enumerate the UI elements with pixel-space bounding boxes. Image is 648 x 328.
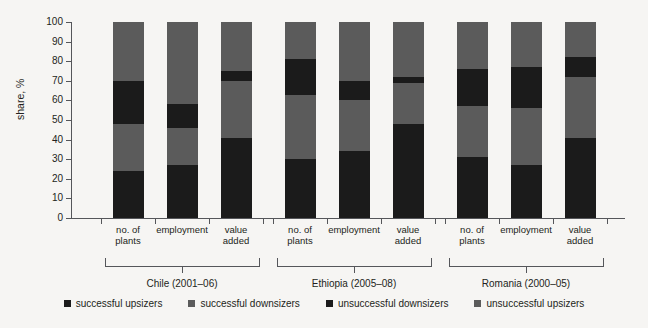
bracket-line bbox=[449, 258, 604, 267]
group-label: Romania (2000–05) bbox=[449, 278, 604, 289]
bracket-line bbox=[277, 258, 432, 267]
bar-segment bbox=[167, 104, 198, 128]
legend-item[interactable]: unsuccessful upsizers bbox=[474, 298, 584, 309]
y-tick-mark bbox=[66, 100, 71, 101]
y-tick-mark bbox=[66, 179, 71, 180]
y-axis-tick: 80 bbox=[52, 56, 72, 66]
bar-segment bbox=[511, 67, 542, 108]
y-axis-tick: 90 bbox=[52, 37, 72, 47]
bar-segment bbox=[113, 124, 144, 171]
bar-segment bbox=[113, 81, 144, 124]
y-axis-tick: 70 bbox=[52, 76, 72, 86]
legend-swatch-icon bbox=[474, 300, 481, 307]
y-axis-tick: 30 bbox=[52, 154, 72, 164]
y-tick-mark bbox=[66, 61, 71, 62]
legend-label: successful upsizers bbox=[76, 298, 163, 309]
bar-segment bbox=[393, 77, 424, 83]
chart-figure: share, % 0102030405060708090100 no. ofpl… bbox=[0, 0, 648, 328]
category-label: valueadded bbox=[543, 224, 617, 246]
legend-swatch-icon bbox=[64, 300, 71, 307]
y-axis-tick: 50 bbox=[52, 115, 72, 125]
bar-segment bbox=[511, 22, 542, 67]
bar-segment bbox=[221, 22, 252, 71]
legend-swatch-icon bbox=[326, 300, 333, 307]
y-axis-tick: 20 bbox=[52, 174, 72, 184]
y-tick-mark bbox=[66, 120, 71, 121]
y-tick-mark bbox=[66, 218, 71, 219]
plot-area: 0102030405060708090100 bbox=[72, 22, 624, 218]
bar-segment bbox=[393, 124, 424, 218]
legend-item[interactable]: unsuccessful downsizers bbox=[326, 298, 449, 309]
legend-swatch-icon bbox=[188, 300, 195, 307]
bar-segment bbox=[285, 159, 316, 218]
bar-segment bbox=[113, 171, 144, 218]
group-bracket: Chile (2001–06) bbox=[105, 258, 260, 289]
bar-segment bbox=[511, 108, 542, 165]
bracket-line bbox=[105, 258, 260, 267]
legend-item[interactable]: successful upsizers bbox=[64, 298, 163, 309]
bar-segment bbox=[167, 165, 198, 218]
bar-segment bbox=[339, 151, 370, 218]
legend-label: unsuccessful downsizers bbox=[338, 298, 449, 309]
y-axis-label: share, % bbox=[14, 79, 26, 120]
y-axis-tick: 100 bbox=[46, 17, 72, 27]
bar-segment bbox=[457, 69, 488, 106]
bar-segment bbox=[167, 128, 198, 165]
legend-label: successful downsizers bbox=[200, 298, 299, 309]
bar-segment bbox=[285, 22, 316, 59]
bar-segment bbox=[221, 138, 252, 218]
bar-segment bbox=[565, 22, 596, 57]
category-label: valueadded bbox=[199, 224, 273, 246]
bar-segment bbox=[457, 157, 488, 218]
bar-segment bbox=[393, 22, 424, 77]
legend-item[interactable]: successful downsizers bbox=[188, 298, 299, 309]
chart-legend: successful upsizerssuccessful downsizers… bbox=[0, 298, 648, 309]
bar-segment bbox=[457, 106, 488, 157]
y-tick-mark bbox=[66, 140, 71, 141]
y-axis-tick: 40 bbox=[52, 135, 72, 145]
y-tick-mark bbox=[66, 159, 71, 160]
y-axis-tick: 0 bbox=[57, 213, 72, 223]
bar-segment bbox=[339, 81, 370, 101]
bar-segment bbox=[167, 22, 198, 104]
bar-segment bbox=[339, 22, 370, 81]
legend-label: unsuccessful upsizers bbox=[486, 298, 584, 309]
bar-segment bbox=[565, 138, 596, 218]
bar-segment bbox=[565, 57, 596, 77]
bracket-stem bbox=[182, 266, 183, 273]
group-bracket: Romania (2000–05) bbox=[449, 258, 604, 289]
bar-segment bbox=[221, 71, 252, 81]
bar-segment bbox=[565, 77, 596, 138]
bar-segment bbox=[113, 22, 144, 81]
bracket-stem bbox=[526, 266, 527, 273]
bar-segment bbox=[285, 95, 316, 160]
y-tick-mark bbox=[66, 42, 71, 43]
bar-segment bbox=[511, 165, 542, 218]
group-bracket: Ethiopia (2005–08) bbox=[277, 258, 432, 289]
group-label: Ethiopia (2005–08) bbox=[277, 278, 432, 289]
y-tick-mark bbox=[66, 22, 71, 23]
y-tick-mark bbox=[66, 81, 71, 82]
bracket-stem bbox=[354, 266, 355, 273]
bar-segment bbox=[457, 22, 488, 69]
category-label: valueadded bbox=[371, 224, 445, 246]
group-label: Chile (2001–06) bbox=[105, 278, 260, 289]
y-axis-tick: 60 bbox=[52, 95, 72, 105]
y-axis-tick: 10 bbox=[52, 193, 72, 203]
bar-segment bbox=[285, 59, 316, 94]
bar-segment bbox=[221, 81, 252, 138]
bar-segment bbox=[339, 100, 370, 151]
bar-segment bbox=[393, 83, 424, 124]
y-tick-mark bbox=[66, 198, 71, 199]
